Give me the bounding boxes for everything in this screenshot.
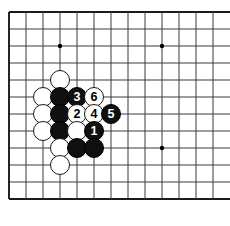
- star-point: [58, 44, 62, 48]
- star-point: [160, 44, 164, 48]
- stone-label: 6: [91, 90, 98, 103]
- stone-label: 2: [74, 107, 81, 120]
- stone-label: 3: [74, 90, 81, 103]
- star-point: [160, 146, 164, 150]
- stone-label: 4: [91, 107, 98, 120]
- go-diagram-figure: 362451: [0, 0, 230, 226]
- stone-label: 5: [108, 107, 115, 120]
- stone-label: 1: [91, 124, 98, 137]
